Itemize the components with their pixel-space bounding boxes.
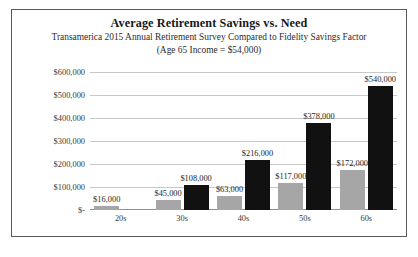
bar-savings-20s[interactable]: [94, 206, 119, 210]
y-axis-tick-label: $400,000: [13, 114, 85, 123]
y-axis: $-$100,000$200,000$300,000$400,000$500,0…: [12, 72, 85, 210]
bar-label-need-60s: $540,000: [354, 75, 406, 84]
gridline: [90, 118, 397, 119]
bar-label-need-40s: $216,000: [232, 149, 284, 158]
x-axis-tick-30s: 30s: [151, 213, 212, 224]
bar-label-need-30s: $108,000: [170, 174, 222, 183]
bar-savings-60s[interactable]: [340, 170, 365, 210]
bar-need-40s[interactable]: [245, 160, 270, 210]
gridline: [90, 95, 397, 96]
gridline: [90, 141, 397, 142]
bar-savings-40s[interactable]: [217, 196, 242, 210]
plot-wrapper: $-$100,000$200,000$300,000$400,000$500,0…: [12, 10, 406, 236]
x-axis-tick-60s: 60s: [336, 213, 397, 224]
bar-label-need-50s: $378,000: [293, 112, 345, 121]
bar-savings-50s[interactable]: [278, 183, 303, 210]
y-axis-tick-label: $100,000: [13, 183, 85, 192]
plot-area: $16,000$45,000$108,000$63,000$216,000$11…: [90, 72, 397, 210]
x-axis-tick-50s: 50s: [274, 213, 335, 224]
y-axis-tick-label: $-: [13, 206, 85, 215]
bar-savings-30s[interactable]: [156, 200, 181, 210]
y-axis-tick-label: $500,000: [13, 91, 85, 100]
gridline: [90, 72, 397, 73]
y-axis-tick-label: $200,000: [13, 160, 85, 169]
y-axis-tick-label: $600,000: [13, 68, 85, 77]
y-axis-tick-label: $300,000: [13, 137, 85, 146]
chart-card: Average Retirement Savings vs. Need Tran…: [11, 9, 407, 237]
bar-need-60s[interactable]: [368, 86, 393, 210]
x-axis-tick-40s: 40s: [213, 213, 274, 224]
x-axis-tick-20s: 20s: [90, 213, 151, 224]
x-axis: 20s30s40s50s60s: [90, 213, 397, 229]
bar-label-savings-20s: $16,000: [81, 195, 133, 204]
